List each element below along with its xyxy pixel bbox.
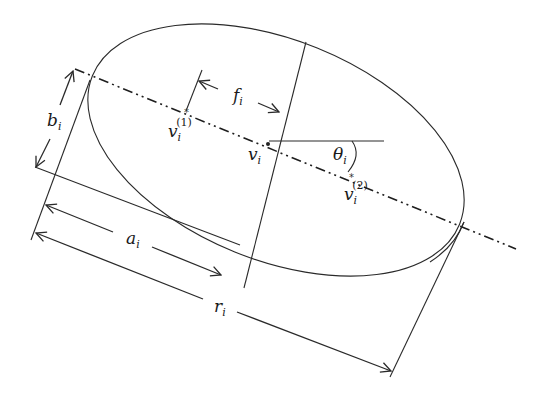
f-arrow-left	[199, 81, 218, 89]
right-tangent-curve	[430, 222, 464, 262]
label-v2: vi(2)	[344, 179, 368, 207]
v-marker	[266, 142, 270, 146]
label-v1: vi(1)	[168, 116, 192, 144]
label-f: fi	[231, 85, 243, 108]
minor-extent-line	[35, 167, 240, 245]
theta-arc	[348, 141, 356, 172]
a-arrow-right	[152, 247, 221, 275]
b-arrow-down	[36, 139, 50, 167]
label-a: ai	[126, 228, 140, 251]
b-arrow-up	[60, 71, 73, 105]
a-arrow-left	[46, 205, 113, 232]
label-theta: θi	[333, 144, 347, 167]
major-axis-line	[75, 69, 516, 249]
ellipse-diagram: * * bi fi vi(1) vi θi vi(2) ai ri	[0, 0, 533, 396]
perpendicular-through-v	[244, 42, 306, 288]
right-extension-line	[390, 222, 464, 377]
label-b: bi	[47, 110, 61, 133]
f-tick-line	[186, 70, 202, 111]
label-r: ri	[214, 296, 226, 319]
r-arrow-right	[237, 312, 391, 371]
label-v: vi	[248, 144, 261, 167]
f-arrow-right	[258, 103, 279, 112]
r-arrow-left	[36, 233, 203, 299]
